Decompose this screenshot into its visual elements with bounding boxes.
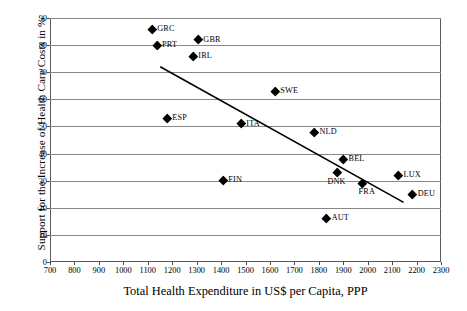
- data-point-label: LUX: [403, 170, 420, 179]
- y-tick-label: 20: [39, 203, 47, 212]
- y-tick-label: 30: [39, 176, 47, 185]
- data-point-label: ITA: [246, 119, 260, 128]
- y-tick-label: 90: [39, 14, 47, 23]
- plot-frame: [50, 18, 441, 262]
- x-tick-mark: [172, 262, 173, 265]
- gridline: [50, 72, 441, 73]
- x-tick-mark: [319, 262, 320, 265]
- x-tick-mark: [221, 262, 222, 265]
- x-tick-mark: [197, 262, 198, 265]
- data-point-label: GBR: [203, 35, 220, 44]
- x-tick-mark: [148, 262, 149, 265]
- gridline: [50, 45, 441, 46]
- x-tick-mark: [343, 262, 344, 265]
- x-tick-mark: [441, 262, 442, 265]
- gridline: [50, 235, 441, 236]
- x-tick-label: 700: [44, 266, 57, 275]
- y-tick-mark: [47, 18, 50, 19]
- y-tick-mark: [47, 181, 50, 182]
- x-tick-mark: [392, 262, 393, 265]
- x-tick-label: 1100: [140, 266, 156, 275]
- data-point-label: BEL: [348, 154, 364, 163]
- y-tick-mark: [47, 45, 50, 46]
- x-tick-label: 900: [93, 266, 106, 275]
- x-tick-label: 2200: [408, 266, 425, 275]
- x-tick-mark: [294, 262, 295, 265]
- x-tick-label: 1500: [237, 266, 254, 275]
- x-tick-label: 1000: [115, 266, 132, 275]
- x-tick-label: 1700: [286, 266, 303, 275]
- x-tick-label: 1400: [213, 266, 230, 275]
- y-tick-label: 50: [39, 122, 47, 131]
- data-point-label: SWE: [280, 86, 298, 95]
- x-tick-label: 800: [68, 266, 81, 275]
- x-tick-label: 1800: [310, 266, 327, 275]
- data-point-label: GRC: [157, 24, 174, 33]
- y-tick-label: 40: [39, 149, 47, 158]
- y-tick-label: 60: [39, 95, 47, 104]
- gridline: [50, 99, 441, 100]
- y-tick-mark: [47, 208, 50, 209]
- x-tick-mark: [270, 262, 271, 265]
- gridline: [50, 18, 441, 19]
- data-point-label: ESP: [172, 113, 187, 122]
- x-tick-mark: [368, 262, 369, 265]
- x-tick-mark: [246, 262, 247, 265]
- x-tick-mark: [123, 262, 124, 265]
- data-point-label: DEU: [418, 189, 435, 198]
- data-point-label: AUT: [332, 213, 349, 222]
- y-tick-mark: [47, 154, 50, 155]
- x-tick-mark: [99, 262, 100, 265]
- data-point-label: FRA: [359, 187, 376, 196]
- data-point-label: IRL: [198, 51, 212, 60]
- y-tick-label: 70: [39, 68, 47, 77]
- y-tick-mark: [47, 235, 50, 236]
- gridline: [50, 181, 441, 182]
- chart-figure: Support for the Increase of Health Care …: [0, 0, 467, 311]
- y-tick-label: 10: [39, 230, 47, 239]
- y-tick-mark: [47, 126, 50, 127]
- x-tick-mark: [50, 262, 51, 265]
- x-tick-mark: [417, 262, 418, 265]
- plot-area: 0102030405060708090 70080090010001100120…: [50, 18, 441, 262]
- data-point-label: FIN: [228, 175, 242, 184]
- x-tick-label: 1900: [335, 266, 352, 275]
- x-tick-label: 2000: [359, 266, 376, 275]
- data-point-label: PRT: [162, 40, 177, 49]
- gridline: [50, 154, 441, 155]
- x-tick-label: 2300: [433, 266, 450, 275]
- y-tick-label: 80: [39, 41, 47, 50]
- x-tick-label: 1300: [188, 266, 205, 275]
- x-tick-mark: [74, 262, 75, 265]
- x-tick-label: 1200: [164, 266, 181, 275]
- data-point-label: DNK: [327, 177, 345, 186]
- y-tick-mark: [47, 99, 50, 100]
- x-tick-label: 2100: [384, 266, 401, 275]
- gridline: [50, 208, 441, 209]
- y-tick-mark: [47, 72, 50, 73]
- x-tick-label: 1600: [262, 266, 279, 275]
- data-point-label: NLD: [319, 127, 336, 136]
- x-axis-title: Total Health Expenditure in US$ per Capi…: [50, 284, 441, 299]
